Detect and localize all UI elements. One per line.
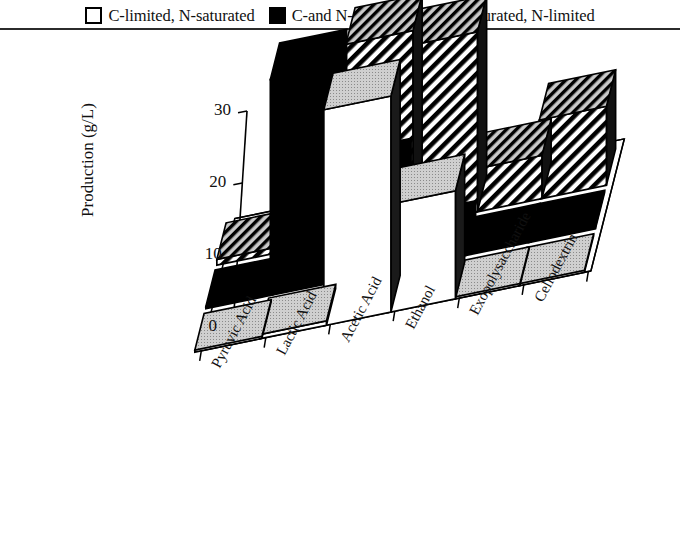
x-axis-tick [458, 298, 460, 308]
x-axis-tick [522, 285, 524, 295]
y-axis-tick-label: 20 [186, 172, 226, 192]
y-axis-tick-label: 10 [182, 244, 222, 264]
y-axis-tick-label: 0 [177, 316, 217, 336]
plot-area [0, 0, 680, 538]
x-axis-tick [393, 311, 395, 321]
x-axis-tick [329, 324, 331, 334]
chart-figure: C-limited, N-saturated C-and N-saturated… [0, 0, 680, 538]
y-axis-tick [233, 183, 242, 185]
bar-side-face [477, 0, 486, 212]
y-axis-tick [238, 111, 247, 113]
x-axis-tick [200, 351, 202, 361]
bar-side-face [391, 59, 400, 312]
x-axis-tick [587, 272, 589, 282]
y-axis-tick-label: 30 [191, 100, 231, 120]
x-axis-tick [264, 338, 266, 348]
